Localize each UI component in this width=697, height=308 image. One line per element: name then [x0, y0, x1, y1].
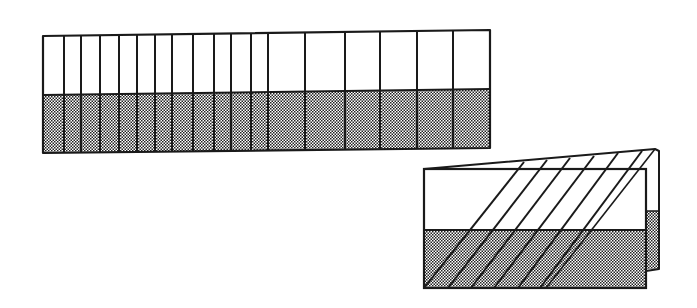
front-panel-lower-shaded [424, 230, 646, 288]
strip-lower-shaded [43, 89, 490, 153]
strip-upper-white [43, 30, 490, 95]
flat-strip [43, 30, 490, 153]
back-panel-shaded [646, 211, 659, 269]
front-panel-upper-white [424, 169, 646, 230]
diagram-canvas [0, 0, 697, 308]
folded-strip-front-panel [424, 169, 646, 288]
folding-strip-diagram [0, 0, 697, 308]
